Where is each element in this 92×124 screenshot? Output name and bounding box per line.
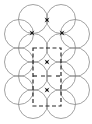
- circle-packing-diagram: [0, 0, 92, 124]
